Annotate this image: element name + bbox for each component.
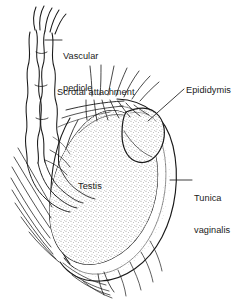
label-tunica-vaginalis-line1: Tunica <box>194 193 230 204</box>
anatomical-figure: Vascular pedicle Scrotal attachment Epid… <box>0 0 249 303</box>
label-tunica-vaginalis: Tunica vaginalis <box>194 172 230 256</box>
label-vascular-pedicle-line1: Vascular <box>63 51 98 62</box>
label-tunica-vaginalis-line2: vaginalis <box>194 225 230 236</box>
label-epididymis: Epididymis <box>186 85 231 96</box>
label-testis: Testis <box>78 181 102 192</box>
label-vascular-pedicle: Vascular pedicle <box>63 30 98 114</box>
figure-illustration <box>0 0 249 303</box>
label-scrotal-attachment: Scrotal attachment <box>57 87 135 98</box>
